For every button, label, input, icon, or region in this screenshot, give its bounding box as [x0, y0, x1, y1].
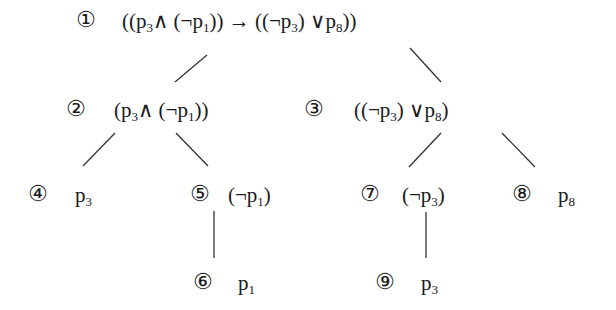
node-5-formula: (¬p1) — [228, 183, 271, 214]
tree-edges — [0, 0, 616, 310]
formula-text: ((p — [122, 9, 147, 33]
formula-text: ) — [264, 183, 271, 207]
edge-1-3 — [410, 48, 441, 82]
formula-text: ) — [438, 183, 445, 207]
node-3-number: ③ — [304, 97, 324, 121]
node-6-formula: p1 — [238, 271, 255, 302]
formula-text: p — [421, 271, 432, 295]
formula-text: ) — [441, 98, 448, 122]
formula-text: ) ∨p — [397, 98, 435, 122]
node-3-formula: ((¬p3) ∨p8) — [354, 98, 448, 129]
node-4-number: ④ — [28, 182, 48, 206]
formula-text: ((¬p — [354, 98, 390, 122]
formula-text: ) ∨p — [298, 9, 336, 33]
edge-3-7 — [409, 133, 441, 167]
formula-text: (p — [114, 98, 132, 122]
subscript: 3 — [86, 194, 93, 209]
node-7-number: ⑦ — [360, 182, 380, 206]
node-4-formula: p3 — [75, 183, 92, 214]
node-9-number: ⑨ — [375, 270, 395, 294]
node-2-formula: (p3∧ (¬p1)) — [114, 98, 208, 129]
subscript: 3 — [432, 282, 439, 297]
edge-1-2 — [175, 55, 207, 82]
node-5-number: ⑤ — [190, 182, 210, 206]
formula-text: ∧ (¬p — [138, 98, 188, 122]
formula-text: )) — [194, 98, 208, 122]
node-6-number: ⑥ — [193, 270, 213, 294]
node-2-number: ② — [66, 97, 86, 121]
edge-3-8 — [502, 133, 535, 167]
node-8-number: ⑧ — [512, 182, 532, 206]
formula-text: )) — [342, 9, 356, 33]
subscript: 1 — [249, 282, 256, 297]
formula-text: )) → ((¬p — [209, 9, 291, 33]
formula-text: (¬p — [402, 183, 431, 207]
formula-text: p — [238, 271, 249, 295]
node-8-formula: p8 — [558, 183, 575, 214]
subscript: 8 — [569, 194, 576, 209]
node-1-number: ① — [76, 8, 96, 32]
node-7-formula: (¬p3) — [402, 183, 445, 214]
formula-text: (¬p — [228, 183, 257, 207]
edge-2-5 — [176, 133, 208, 166]
formula-text: p — [558, 183, 569, 207]
edge-2-4 — [83, 133, 115, 166]
formula-text: ∧ (¬p — [153, 9, 203, 33]
node-1-formula: ((p3∧ (¬p1)) → ((¬p3) ∨p8)) — [122, 9, 356, 40]
node-9-formula: p3 — [421, 271, 438, 302]
formula-text: p — [75, 183, 86, 207]
